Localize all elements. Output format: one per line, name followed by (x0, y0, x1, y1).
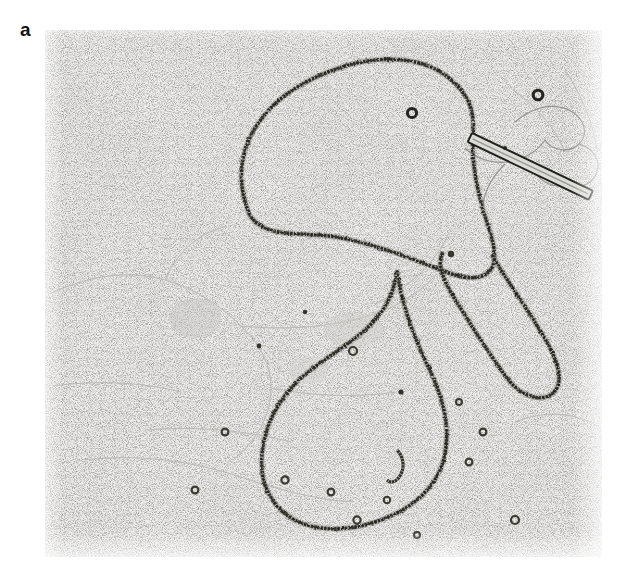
panel-label-a: a (20, 20, 31, 39)
filament-crossover-junction (448, 251, 454, 257)
figure-panel: a (0, 0, 630, 585)
electron-micrograph-image (45, 30, 602, 557)
micrograph-canvas (45, 30, 602, 557)
